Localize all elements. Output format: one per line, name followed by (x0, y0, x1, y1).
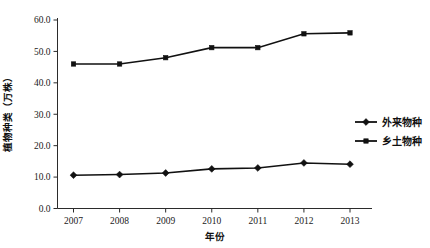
y-tick-label: 30.0 (34, 110, 51, 120)
data-point-square (210, 45, 214, 49)
x-tick-label: 2012 (294, 216, 313, 226)
y-tick-label: 50.0 (34, 47, 51, 57)
x-tick-label: 2009 (156, 216, 175, 226)
data-point-square (348, 31, 352, 35)
data-point-square (71, 62, 75, 66)
chart-container: 0.010.020.030.040.050.060.0 200720082009… (0, 0, 430, 248)
data-point-diamond (301, 160, 308, 167)
data-point-square (364, 139, 368, 143)
x-axis-ticks (74, 209, 351, 213)
y-tick-label: 10.0 (34, 172, 51, 182)
data-point-square (302, 32, 306, 36)
x-axis-tick-labels: 2007200820092010201120122013 (64, 216, 360, 226)
data-point-diamond (162, 170, 169, 177)
y-axis-tick-labels: 0.010.020.030.040.050.060.0 (34, 15, 51, 214)
x-tick-label: 2010 (202, 216, 221, 226)
y-axis-title: 植物种类（万株） (2, 72, 13, 153)
data-point-diamond (70, 172, 77, 179)
y-tick-label: 0.0 (39, 204, 51, 214)
y-tick-label: 40.0 (34, 78, 51, 88)
data-point-diamond (116, 171, 123, 178)
legend-label: 外来物种 (381, 116, 422, 128)
x-tick-label: 2007 (64, 216, 83, 226)
x-tick-label: 2008 (110, 216, 129, 226)
data-point-diamond (347, 161, 354, 168)
y-tick-label: 60.0 (34, 15, 51, 25)
x-tick-label: 2011 (249, 216, 268, 226)
data-point-diamond (254, 165, 261, 172)
data-point-square (117, 62, 121, 66)
x-tick-label: 2013 (341, 216, 360, 226)
line-chart: 0.010.020.030.040.050.060.0 200720082009… (0, 0, 430, 248)
chart-legend: 外来物种乡土物种 (355, 116, 422, 147)
y-tick-label: 20.0 (34, 141, 51, 151)
data-point-diamond (363, 119, 370, 126)
series-layer (70, 31, 353, 179)
data-point-square (163, 56, 167, 60)
x-axis-title: 年份 (205, 231, 225, 242)
legend-label: 乡土物种 (382, 135, 422, 147)
data-point-diamond (208, 166, 215, 173)
data-point-square (256, 45, 260, 49)
y-axis-ticks (54, 20, 58, 209)
